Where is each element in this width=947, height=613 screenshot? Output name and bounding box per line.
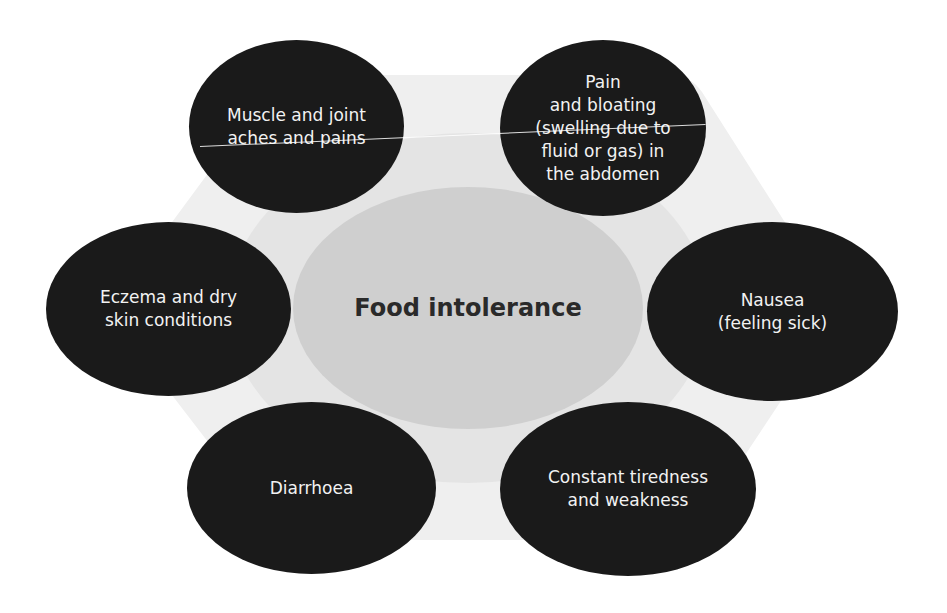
symptom-label: Constant tiredness and weakness [548, 466, 708, 512]
symptom-label: Eczema and dry skin conditions [100, 286, 237, 332]
food-intolerance-diagram: Food intolerance Muscle and joint aches … [0, 0, 947, 613]
symptom-muscle-joint-aches: Muscle and joint aches and pains [189, 40, 404, 213]
center-topic-label: Food intolerance [354, 294, 581, 322]
symptom-label: Nausea (feeling sick) [718, 289, 827, 335]
symptom-eczema: Eczema and dry skin conditions [46, 222, 291, 396]
symptom-diarrhoea: Diarrhoea [187, 402, 436, 574]
center-topic: Food intolerance [293, 187, 643, 429]
symptom-tiredness: Constant tiredness and weakness [500, 402, 756, 576]
symptom-label: Diarrhoea [270, 477, 354, 500]
symptom-nausea: Nausea (feeling sick) [647, 222, 898, 401]
